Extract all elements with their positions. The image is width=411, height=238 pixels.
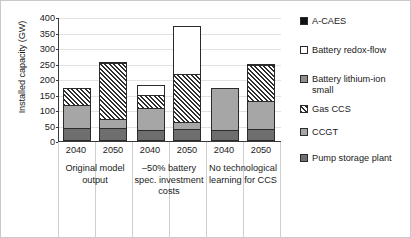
bar-4	[211, 88, 239, 141]
y-tick-label: 400	[29, 14, 55, 23]
y-tick-mark	[56, 96, 59, 97]
bar-5	[247, 64, 275, 141]
y-tick-mark	[56, 49, 59, 50]
plot-area	[58, 18, 281, 142]
bar-segment	[247, 101, 275, 129]
gridline	[59, 34, 281, 35]
legend-item: A-CAES	[300, 16, 346, 27]
x-tick-label-year: 2040	[58, 145, 94, 155]
legend-swatch-icon	[300, 105, 308, 113]
bar-1	[99, 62, 127, 141]
y-axis-ticks: 050100150200250300350400	[29, 18, 55, 142]
x-axis: 204020502040205020402050Original model o…	[58, 142, 281, 238]
bar-0	[63, 88, 91, 141]
legend-label: Battery lithium-ion small	[312, 74, 386, 95]
bar-segment	[137, 108, 165, 130]
y-tick-mark	[56, 80, 59, 81]
legend-label: A-CAES	[312, 16, 346, 27]
legend-label: Battery redox-flow	[312, 45, 386, 56]
y-tick-mark	[56, 111, 59, 112]
bar-segment	[63, 128, 91, 141]
x-axis-separator	[243, 142, 244, 238]
x-axis-separator	[95, 142, 96, 238]
y-tick-label: 200	[29, 76, 55, 85]
legend-item: CCGT	[300, 127, 338, 138]
bar-segment	[63, 105, 91, 128]
y-tick-mark	[56, 65, 59, 66]
legend-item: Battery lithium-ion small	[300, 74, 386, 95]
bar-segment	[211, 130, 239, 141]
x-tick-label-year: 2050	[243, 145, 279, 155]
x-axis-separator	[280, 142, 281, 238]
bar-segment	[211, 88, 239, 130]
legend-label: Pump storage plant	[312, 153, 392, 164]
bar-segment	[173, 74, 201, 122]
bar-segment	[99, 128, 127, 141]
y-tick-label: 150	[29, 91, 55, 100]
bar-segment	[137, 130, 165, 141]
legend-item: Pump storage plant	[300, 153, 392, 164]
bar-segment	[173, 129, 201, 141]
bar-segment	[99, 119, 127, 128]
legend-swatch-icon	[300, 75, 308, 83]
x-axis-separator	[206, 142, 207, 238]
chart-figure: Installed capacity (GW) 0501001502002503…	[0, 0, 411, 238]
bar-segment	[173, 26, 201, 74]
y-tick-mark	[56, 34, 59, 35]
gridline	[59, 18, 281, 19]
bar-segment	[247, 64, 275, 66]
bar-segment	[173, 122, 201, 128]
y-tick-label: 0	[29, 138, 55, 147]
y-tick-label: 50	[29, 122, 55, 131]
legend-label: Gas CCS	[312, 104, 351, 115]
legend-swatch-icon	[300, 128, 308, 136]
y-tick-mark	[56, 18, 59, 19]
y-axis-title: Installed capacity (GW)	[17, 0, 27, 135]
y-tick-label: 100	[29, 107, 55, 116]
legend-item: Battery redox-flow	[300, 45, 386, 56]
x-tick-label-year: 2050	[95, 145, 131, 155]
bar-segment	[247, 129, 275, 141]
gridline	[59, 49, 281, 50]
x-tick-label-year: 2050	[169, 145, 205, 155]
y-tick-label: 250	[29, 60, 55, 69]
bar-segment	[247, 65, 275, 101]
legend-swatch-icon	[300, 154, 308, 162]
bar-segment	[63, 88, 91, 106]
x-axis-separator	[58, 142, 59, 238]
x-tick-label-year: 2040	[132, 145, 168, 155]
x-axis-group-label: No technological learning for CCS	[206, 163, 280, 186]
bar-segment	[137, 85, 165, 94]
x-axis-group-label: Original model output	[58, 163, 132, 186]
legend-swatch-icon	[300, 46, 308, 54]
y-tick-mark	[56, 127, 59, 128]
legend-item: Gas CCS	[300, 104, 351, 115]
y-tick-label: 300	[29, 45, 55, 54]
bar-2	[137, 85, 165, 141]
bar-segment	[99, 63, 127, 120]
y-tick-label: 350	[29, 29, 55, 38]
legend-swatch-icon	[300, 17, 308, 25]
legend-label: CCGT	[312, 127, 338, 138]
x-axis-group-label: –50% battery spec. investment costs	[132, 163, 206, 198]
bar-segment	[99, 62, 127, 63]
x-tick-label-year: 2040	[206, 145, 242, 155]
bar-segment	[137, 95, 165, 109]
bar-3	[173, 26, 201, 141]
